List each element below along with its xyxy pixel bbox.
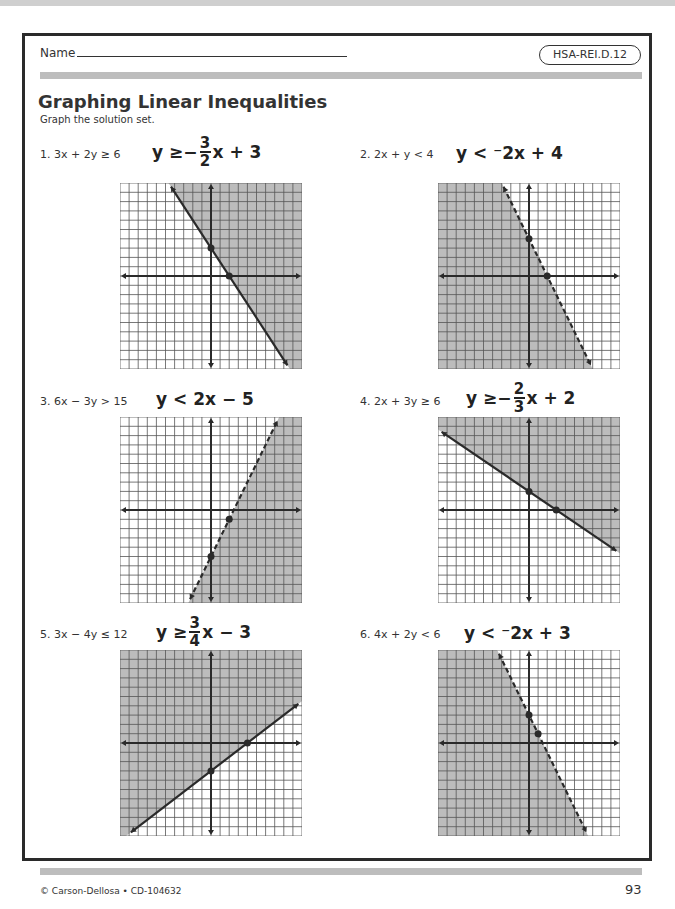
problem-3-label: 3. 6x − 3y > 15: [40, 395, 127, 408]
problem-3-answer: y < 2x − 5: [156, 389, 254, 409]
graph-6[interactable]: [438, 650, 620, 836]
graph-5[interactable]: [120, 650, 302, 836]
top-band: [0, 0, 675, 6]
graph-4[interactable]: [438, 417, 620, 603]
instructions: Graph the solution set.: [40, 114, 155, 125]
copyright: © Carson-Dellosa • CD-104632: [40, 886, 182, 896]
standard-badge: HSA-REI.D.12: [539, 45, 641, 65]
problem-number: 1.: [40, 148, 51, 161]
fraction: 32: [200, 136, 211, 168]
problem-2-answer: y < ⁻2x + 4: [456, 143, 563, 163]
name-line[interactable]: [77, 46, 347, 57]
problem-1-answer: y ≥ − 32 x + 3: [152, 136, 261, 168]
problem-5-answer: y ≥ 34 x − 3: [156, 616, 251, 648]
footer-divider: [40, 868, 642, 875]
page-number: 93: [625, 882, 642, 897]
problem-4-answer: y ≥ − 23 x + 2: [466, 382, 575, 414]
graph-2[interactable]: [438, 183, 620, 369]
problem-inequality: 3x + 2y ≥ 6: [54, 148, 120, 161]
problem-6-label: 6. 4x + 2y < 6: [360, 628, 440, 641]
problem-1-label: 1. 3x + 2y ≥ 6: [40, 148, 120, 161]
problem-4-label: 4. 2x + 3y ≥ 6: [360, 395, 440, 408]
page-title: Graphing Linear Inequalities: [38, 91, 327, 112]
graph-3[interactable]: [120, 417, 302, 603]
name-label: Name: [40, 46, 75, 60]
graph-1[interactable]: [120, 183, 302, 369]
problem-2-label: 2. 2x + y < 4: [360, 148, 433, 161]
problem-5-label: 5. 3x − 4y ≤ 12: [40, 628, 127, 641]
problem-6-answer: y < ⁻2x + 3: [464, 623, 571, 643]
name-field[interactable]: Name: [40, 46, 347, 60]
header-divider: [40, 72, 642, 79]
